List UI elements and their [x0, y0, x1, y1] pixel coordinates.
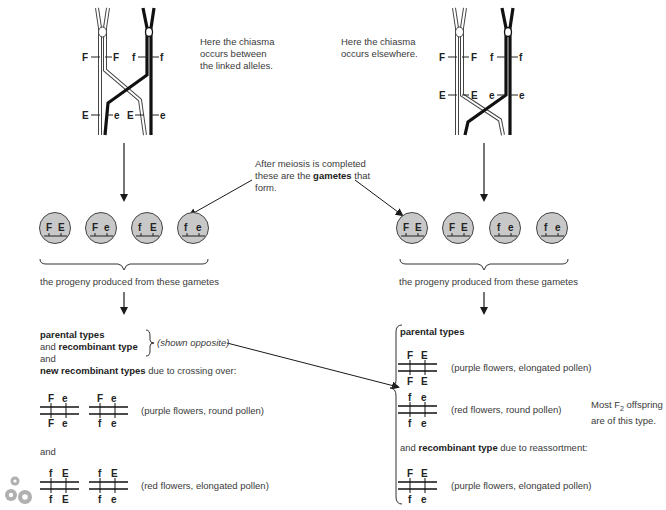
- svg-text:F: F: [407, 376, 413, 387]
- svg-text:e: e: [421, 494, 427, 505]
- left-label-f1: f: [132, 52, 136, 63]
- svg-text:f: f: [98, 468, 102, 479]
- svg-text:F: F: [92, 222, 98, 233]
- left-label-f2: f: [160, 52, 164, 63]
- svg-text:F: F: [407, 350, 413, 361]
- left-gamete-brace: [40, 259, 208, 270]
- left-phenotype-2: (red flowers, elongated pollen): [141, 480, 269, 492]
- right-caption: Here the chiasma occurs elsewhere.: [341, 36, 418, 60]
- svg-text:F: F: [403, 222, 409, 233]
- svg-text:E: E: [421, 350, 428, 361]
- right-phenotype-2: (red flowers, round pollen): [451, 404, 561, 416]
- svg-text:F: F: [407, 468, 413, 479]
- svg-text:f: f: [408, 494, 412, 505]
- right-label-e1: e: [489, 90, 495, 101]
- shown-opposite-label: (shown opposite): [157, 337, 229, 349]
- svg-text:e: e: [111, 494, 117, 505]
- svg-text:e: e: [555, 222, 561, 233]
- svg-text:f: f: [49, 494, 53, 505]
- right-label-e2: e: [519, 90, 525, 101]
- left-label-E1: E: [82, 110, 89, 121]
- right-gamete-brace: [400, 259, 568, 270]
- shown-opposite-arrow: [227, 343, 398, 387]
- right-genotypes: FE FE fe fe FE fe: [398, 350, 437, 505]
- svg-text:F: F: [97, 393, 103, 404]
- svg-text:e: e: [62, 418, 68, 429]
- right-label-f1: f: [490, 52, 494, 63]
- recombinant-heading: and recombinant type due to reassortment…: [400, 442, 587, 454]
- svg-text:E: E: [62, 494, 69, 505]
- svg-text:e: e: [62, 393, 68, 404]
- right-vertical-brace: [390, 325, 402, 504]
- svg-text:f: f: [408, 392, 412, 403]
- diagram-graphics: F F f f E e E e F F f f E E e e: [0, 0, 666, 510]
- left-phenotype-1: (purple flowers, round pollen): [141, 405, 264, 417]
- svg-text:f: f: [98, 494, 102, 505]
- svg-text:E: E: [62, 468, 69, 479]
- svg-text:e: e: [111, 393, 117, 404]
- left-progeny-text: the progeny produced from these gametes: [40, 276, 219, 288]
- left-label-e1: e: [114, 110, 120, 121]
- svg-text:F: F: [48, 393, 54, 404]
- right-label-F2: F: [471, 52, 477, 63]
- left-caption: Here the chiasma occurs between the link…: [200, 36, 274, 72]
- svg-text:F: F: [48, 418, 54, 429]
- left-gametes: FE Fe fE fe: [40, 213, 209, 244]
- svg-text:f: f: [49, 468, 53, 479]
- svg-text:e: e: [508, 222, 514, 233]
- right-parental-heading: parental types: [400, 326, 464, 338]
- svg-text:E: E: [421, 468, 428, 479]
- svg-text:e: e: [196, 222, 202, 233]
- svg-text:E: E: [415, 222, 422, 233]
- svg-text:f: f: [408, 418, 412, 429]
- svg-text:F: F: [449, 222, 455, 233]
- svg-text:E: E: [461, 222, 468, 233]
- left-label-F1: F: [82, 52, 88, 63]
- svg-text:e: e: [421, 392, 427, 403]
- most-f2-note: Most F2 offspring are of this type.: [591, 399, 663, 427]
- svg-text:F: F: [46, 222, 52, 233]
- right-phenotype-3: (purple flowers, elongated pollen): [451, 480, 591, 492]
- svg-text:f: f: [98, 418, 102, 429]
- svg-text:E: E: [421, 376, 428, 387]
- right-chromosome-pair: F F f f E E e e: [439, 8, 525, 135]
- right-gametes: FE FE fe fe: [397, 213, 568, 244]
- left-label-e2: e: [160, 110, 166, 121]
- gears-icon: [5, 477, 32, 505]
- right-label-E2: E: [471, 90, 478, 101]
- svg-text:E: E: [111, 468, 118, 479]
- svg-text:E: E: [150, 222, 157, 233]
- svg-text:e: e: [104, 222, 110, 233]
- pointer-arrow-left: [190, 180, 252, 215]
- right-progeny-text: the progeny produced from these gametes: [399, 276, 578, 288]
- svg-text:E: E: [58, 222, 65, 233]
- right-label-f2: f: [519, 52, 523, 63]
- left-and-label: and: [40, 446, 56, 458]
- right-label-E1: E: [439, 90, 446, 101]
- left-label-F2: F: [113, 52, 119, 63]
- svg-text:e: e: [111, 418, 117, 429]
- right-label-F1: F: [439, 52, 445, 63]
- gametes-note: After meiosis is completed these are the…: [255, 158, 370, 194]
- left-label-E2: E: [127, 110, 134, 121]
- right-phenotype-1: (purple flowers, elongated pollen): [451, 362, 591, 374]
- svg-text:e: e: [421, 418, 427, 429]
- left-chromosome-pair: F F f f E e E e: [82, 8, 166, 135]
